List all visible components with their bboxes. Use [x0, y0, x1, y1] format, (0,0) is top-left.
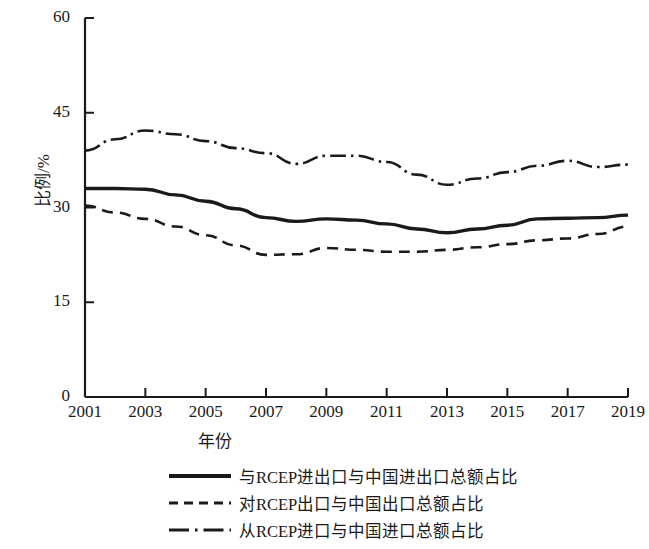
x-tick-label: 2001	[58, 403, 112, 420]
data-series-group	[85, 130, 628, 254]
y-tick-label: 15	[30, 292, 70, 309]
legend-label: 与RCEP进出口与中国进出口总额占比	[239, 464, 518, 488]
x-axis-ticks	[85, 388, 628, 397]
x-tick-label: 2017	[541, 403, 595, 420]
legend-swatch-solid	[168, 469, 232, 483]
legend-swatch-dashed	[168, 496, 232, 510]
legend-swatch-dashdot	[168, 523, 232, 537]
series-line-3	[85, 130, 628, 184]
legend-item: 对RCEP出口与中国出口总额占比	[168, 489, 628, 516]
x-tick-label: 2009	[299, 403, 353, 420]
legend-item: 与RCEP进出口与中国进出口总额占比	[168, 462, 628, 489]
y-tick-label: 60	[30, 8, 70, 25]
y-tick-label: 30	[30, 198, 70, 215]
y-tick-label: 45	[30, 103, 70, 120]
x-tick-label: 2003	[118, 403, 172, 420]
series-line-2	[85, 206, 628, 255]
legend-label: 从RCEP进口与中国进口总额占比	[239, 518, 484, 542]
x-axis-label: 年份	[0, 427, 430, 452]
x-tick-label: 2013	[420, 403, 474, 420]
chart-legend: 与RCEP进出口与中国进出口总额占比对RCEP出口与中国出口总额占比从RCEP进…	[168, 462, 628, 543]
axes-group	[85, 18, 628, 397]
y-tick-label: 0	[30, 387, 70, 404]
x-tick-label: 2019	[601, 403, 649, 420]
legend-item: 从RCEP进口与中国进口总额占比	[168, 516, 628, 543]
x-tick-label: 2015	[480, 403, 534, 420]
x-tick-label: 2005	[179, 403, 233, 420]
x-tick-label: 2011	[360, 403, 414, 420]
legend-label: 对RCEP出口与中国出口总额占比	[239, 491, 484, 515]
x-tick-label: 2007	[239, 403, 293, 420]
series-line-1	[85, 189, 628, 233]
